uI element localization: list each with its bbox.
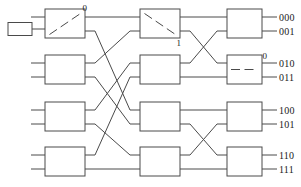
output-label-001: 001 — [279, 26, 295, 37]
link-s1-0b-to-s2-2t — [85, 31, 140, 110]
output-label-011: 011 — [279, 72, 294, 83]
output-label-010: 010 — [279, 58, 295, 69]
output-label-000: 000 — [279, 12, 295, 23]
sw-1-1-box[interactable] — [45, 55, 85, 84]
link-s1-3t-to-s2-1b — [85, 77, 140, 155]
output-label-110: 110 — [279, 150, 294, 161]
sw-2-3-box[interactable] — [140, 147, 180, 176]
link-s1-2b-to-s2-3t — [85, 124, 140, 155]
sw-1-0-crossbar — [50, 14, 81, 35]
network-diagram-canvas: 0 1 0 000 001 010 011 100 101 110 111 — [0, 0, 301, 187]
sw-3-2-box[interactable] — [227, 102, 262, 131]
sw-2-2-box[interactable] — [140, 102, 180, 131]
sw-2-1-box[interactable] — [140, 55, 180, 84]
sw-2-0-state-label: 1 — [177, 38, 182, 48]
sw-3-3-box[interactable] — [227, 147, 262, 176]
sw-3-0-box[interactable] — [227, 9, 262, 38]
sw-1-0-state-label: 0 — [83, 3, 88, 13]
sw-2-0-crossbar — [145, 14, 176, 35]
interconnection-network-svg: 0 1 0 000 001 010 011 100 101 110 111 — [0, 0, 301, 187]
link-s1-1t-to-s2-0b — [85, 31, 140, 63]
output-label-111: 111 — [279, 164, 294, 175]
sw-1-3-box[interactable] — [45, 147, 85, 176]
source-node-box — [8, 23, 32, 36]
link-s2-3t-to-s3-2b — [180, 124, 227, 155]
output-label-100: 100 — [279, 105, 295, 116]
output-label-101: 101 — [279, 119, 295, 130]
link-s2-1t-to-s3-0b — [180, 31, 227, 63]
sw-3-1-state-label: 0 — [263, 51, 268, 61]
sw-1-2-box[interactable] — [45, 102, 85, 131]
